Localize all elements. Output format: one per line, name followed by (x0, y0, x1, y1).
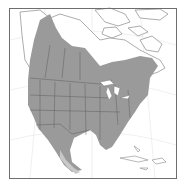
map-canvas (0, 0, 184, 185)
range-map (0, 0, 184, 185)
caribbean-islands (120, 146, 166, 170)
